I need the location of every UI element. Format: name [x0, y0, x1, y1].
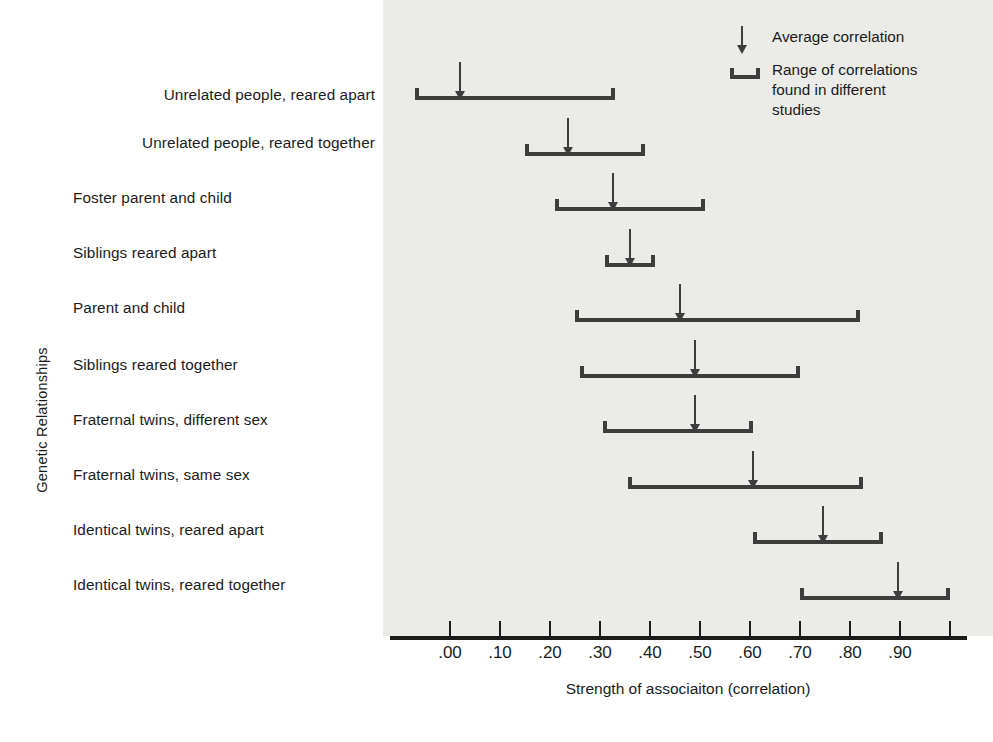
- legend-label-range-of-correlations: Range of correlations found in different…: [772, 60, 981, 120]
- legend-label-line-2: found in different: [772, 80, 981, 100]
- average-correlation-arrow: [897, 562, 899, 592]
- average-correlation-arrow: [679, 284, 681, 314]
- chart-row: [0, 389, 993, 449]
- range-bracket: [525, 144, 645, 156]
- legend-item-range-of-correlations: Range of correlations found in different…: [726, 60, 981, 120]
- genetic-relationships-correlation-chart: Genetic Relationships Unrelated people, …: [0, 0, 993, 742]
- x-tick: [849, 621, 852, 636]
- legend: Average correlation Range of correlation…: [726, 24, 981, 120]
- average-correlation-arrow: [752, 451, 754, 481]
- range-bracket: [575, 310, 860, 322]
- down-arrow-icon: [726, 24, 770, 54]
- x-tick: [599, 621, 602, 636]
- x-axis-line: [390, 636, 967, 640]
- chart-row: [0, 278, 993, 338]
- chart-row: [0, 334, 993, 394]
- legend-label-line-3: studies: [772, 100, 981, 120]
- x-tick: [549, 621, 552, 636]
- range-bracket-icon: [726, 60, 770, 90]
- x-tick-label: .90: [870, 643, 930, 663]
- average-correlation-arrow: [567, 118, 569, 148]
- chart-row: [0, 112, 993, 172]
- x-axis-title: Strength of associaiton (correlation): [383, 680, 993, 698]
- range-bracket: [628, 477, 863, 489]
- legend-label-line-1: Range of correlations: [772, 60, 981, 80]
- chart-row: [0, 223, 993, 283]
- x-tick: [899, 621, 902, 636]
- average-correlation-arrow: [694, 340, 696, 370]
- average-correlation-arrow: [694, 395, 696, 425]
- x-tick: [749, 621, 752, 636]
- chart-row: [0, 556, 993, 616]
- average-correlation-arrow: [629, 229, 631, 259]
- average-correlation-arrow: [612, 173, 614, 203]
- legend-item-average-correlation: Average correlation: [726, 24, 981, 54]
- range-bracket: [555, 199, 705, 211]
- average-correlation-arrow: [459, 62, 461, 92]
- x-tick: [649, 621, 652, 636]
- x-tick: [499, 621, 502, 636]
- chart-row: [0, 445, 993, 505]
- chart-row: [0, 167, 993, 227]
- average-correlation-arrow: [822, 506, 824, 536]
- range-bracket: [603, 421, 753, 433]
- range-bracket: [800, 588, 950, 600]
- chart-row: [0, 500, 993, 560]
- range-bracket: [415, 88, 615, 100]
- x-tick: [799, 621, 802, 636]
- x-tick: [449, 621, 452, 636]
- legend-label-average-correlation: Average correlation: [772, 24, 981, 47]
- x-tick: [949, 621, 952, 636]
- x-tick: [699, 621, 702, 636]
